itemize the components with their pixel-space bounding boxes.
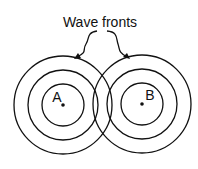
wave-fronts-diagram: Wave fronts A B [0, 0, 198, 169]
source-b-label: B [145, 87, 154, 103]
diagram-canvas: Wave fronts A B [0, 0, 198, 169]
source-a-label: A [52, 89, 62, 105]
title-label: Wave fronts [63, 14, 137, 30]
left-arrow-line [77, 31, 97, 57]
source-b-point [140, 102, 144, 106]
right-arrow-line [107, 31, 127, 57]
source-a-point [61, 103, 65, 107]
